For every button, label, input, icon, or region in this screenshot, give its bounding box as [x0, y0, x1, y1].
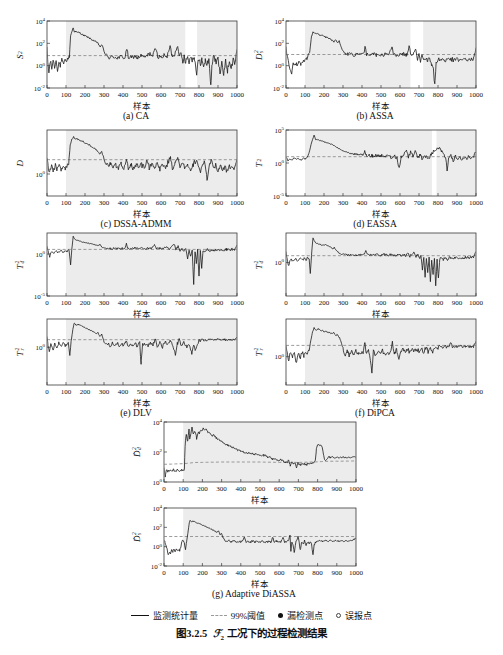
y-axis-label: T2r: [15, 348, 25, 356]
x-axis-label: 样本: [286, 396, 476, 408]
x-tick-label: 400: [118, 299, 129, 307]
y-tick-label: 10-5: [273, 192, 285, 201]
x-tick-label: 200: [197, 569, 208, 577]
chart-canvas-diassa-ds2: 10410210010-2010020030040050060070080090…: [124, 498, 366, 582]
chart-canvas-dssa-admm: 10001002003004005006007008009001000: [7, 120, 247, 212]
x-tick-label: 300: [99, 299, 110, 307]
x-tick-label: 900: [452, 199, 463, 207]
y-axis-label-sub: s: [259, 50, 264, 53]
legend-item-threshold: 99%阈值: [211, 609, 266, 622]
x-tick-label: 600: [156, 199, 167, 207]
x-tick-label: 200: [80, 299, 91, 307]
condition-symbol: ℱ: [213, 628, 221, 639]
condition-symbol-sub: 2: [221, 634, 225, 642]
x-tick-label: 200: [80, 199, 91, 207]
x-tick-label: 300: [338, 91, 349, 99]
x-tick-label: 300: [99, 91, 110, 99]
y-tick-label: 100: [275, 258, 285, 267]
x-tick-label: 400: [236, 569, 247, 577]
x-tick-label: 700: [293, 569, 304, 577]
x-tick-label: 400: [118, 199, 129, 207]
x-tick-label: 500: [376, 388, 387, 396]
x-tick-label: 300: [216, 569, 227, 577]
x-tick-label: 100: [300, 299, 311, 307]
y-axis-label-script: 2: [18, 51, 23, 54]
x-tick-label: 1000: [349, 569, 364, 577]
y-axis-label-sup: 2: [257, 159, 262, 162]
x-tick-label: 800: [433, 388, 444, 396]
x-tick-label: 500: [376, 299, 387, 307]
y-axis-label-script: 2d: [15, 260, 25, 263]
x-tick-label: 800: [433, 299, 444, 307]
y-axis-label-sub: d: [20, 260, 25, 263]
x-tick-label: 700: [293, 485, 304, 493]
y-axis-label-base: D: [15, 160, 25, 167]
chart-canvas-dlv-tr2: 10001002003004005006007008009001000: [7, 309, 247, 401]
legend-item-statistic: 监测统计量: [131, 609, 198, 622]
x-tick-label: 100: [300, 199, 311, 207]
y-axis-label-sub: r: [259, 348, 264, 351]
y-axis-label-base: T: [15, 351, 25, 356]
fault-region-band: [183, 422, 356, 482]
y-axis-label-script: 2s: [132, 532, 142, 535]
y-axis-label-base: D̃: [132, 535, 142, 542]
y-tick-label: 105: [275, 126, 285, 135]
chart-canvas-ca: 10410210010-2010020030040050060070080090…: [7, 11, 247, 104]
x-tick-label: 300: [338, 388, 349, 396]
x-tick-label: 0: [284, 199, 288, 207]
legend-item-false-alarm: 误报点: [336, 609, 372, 622]
x-tick-label: 900: [452, 388, 463, 396]
x-tick-label: 400: [236, 485, 247, 493]
legend-label: 99%阈值: [231, 609, 266, 622]
x-tick-label: 700: [175, 388, 186, 396]
x-tick-label: 600: [395, 299, 406, 307]
y-axis-label-base: D: [254, 53, 264, 60]
x-tick-label: 600: [395, 388, 406, 396]
solid-line-icon: [131, 615, 149, 616]
y-axis-label: T2d: [254, 260, 264, 268]
x-tick-label: 800: [433, 91, 444, 99]
x-tick-label: 200: [80, 91, 91, 99]
x-axis-label: 样本: [286, 207, 476, 219]
y-axis-label-sup: 2: [18, 51, 23, 54]
x-tick-label: 100: [178, 569, 189, 577]
x-tick-label: 400: [118, 91, 129, 99]
chart-canvas-eassa: 10510010-5010020030040050060070080090010…: [246, 120, 486, 212]
fault-region-band: [305, 233, 476, 296]
x-tick-label: 700: [414, 299, 425, 307]
y-tick-label: 10-2: [34, 84, 46, 93]
x-tick-label: 800: [312, 485, 323, 493]
x-tick-label: 700: [414, 91, 425, 99]
y-tick-label: 100: [153, 543, 163, 552]
x-tick-label: 900: [213, 199, 224, 207]
x-tick-label: 1000: [230, 199, 245, 207]
x-tick-label: 600: [156, 299, 167, 307]
x-tick-label: 200: [319, 91, 330, 99]
x-tick-label: 1000: [349, 485, 364, 493]
x-tick-label: 900: [452, 299, 463, 307]
y-axis-label-script: 2r: [15, 348, 25, 351]
fault-region-band: [305, 130, 432, 196]
y-axis-label-base: T: [254, 351, 264, 356]
x-tick-label: 0: [45, 388, 49, 396]
legend-label: 漏检测点: [287, 609, 323, 622]
x-tick-label: 100: [300, 388, 311, 396]
x-tick-label: 800: [194, 91, 205, 99]
x-tick-label: 300: [99, 388, 110, 396]
x-tick-label: 300: [216, 485, 227, 493]
x-tick-label: 200: [80, 388, 91, 396]
y-axis-label-base: T: [15, 264, 25, 269]
y-tick-label: 100: [275, 159, 285, 168]
y-tick-label: 104: [153, 418, 163, 427]
chart-canvas-dlv-td2: 10010-501002003004005006007008009001000: [7, 223, 247, 312]
figure-caption: 图3.2.5 ℱ2 工况下的过程检测结果: [0, 625, 503, 642]
chart-canvas-diassa-dd2: 1041021000100200300400500600700800900100…: [124, 412, 366, 498]
y-axis-label-script: 2r: [254, 348, 264, 351]
y-tick-label: 100: [36, 343, 46, 352]
x-tick-label: 0: [284, 299, 288, 307]
subplot-adaptive-diassa-ds2: 10410210010-2010020030040050060070080090…: [124, 498, 366, 606]
fault-region-band: [437, 130, 477, 196]
y-axis-label: S2: [15, 51, 25, 59]
x-tick-label: 700: [175, 299, 186, 307]
figure-page: 10410210010-2010020030040050060070080090…: [0, 0, 503, 655]
